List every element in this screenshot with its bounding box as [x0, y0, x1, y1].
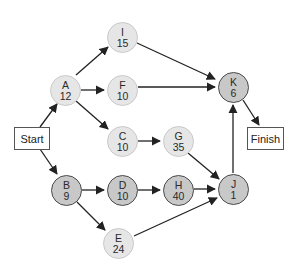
node-f: F 10 — [107, 75, 138, 106]
node-i: I 15 — [107, 22, 138, 53]
edge-start-b — [40, 149, 57, 174]
start-label: Start — [20, 133, 43, 145]
node-j: J 1 — [218, 174, 249, 205]
node-a: A 12 — [50, 75, 81, 106]
node-k-id: K — [230, 77, 237, 88]
node-e-id: E — [115, 233, 122, 244]
node-h-duration: 40 — [173, 191, 185, 202]
start-box: Start — [14, 127, 50, 150]
edge-b-e — [77, 202, 105, 230]
network-diagram: Start Finish I 15 A 12 F 10 K 6 C 10 G 3… — [0, 0, 301, 270]
node-c: C 10 — [107, 126, 138, 157]
node-d-id: D — [119, 180, 127, 191]
node-g: G 35 — [163, 126, 194, 157]
finish-box: Finish — [247, 127, 284, 150]
node-h: H 40 — [163, 175, 194, 206]
node-e: E 24 — [103, 228, 134, 259]
edge-g-j — [188, 153, 219, 179]
node-c-duration: 10 — [117, 142, 129, 153]
node-j-duration: 1 — [231, 190, 237, 201]
node-a-id: A — [62, 80, 69, 91]
node-g-duration: 35 — [173, 142, 185, 153]
node-e-duration: 24 — [113, 244, 125, 255]
node-f-id: F — [119, 80, 125, 91]
finish-label: Finish — [251, 133, 280, 145]
node-f-duration: 10 — [117, 91, 129, 102]
node-g-id: G — [174, 131, 182, 142]
node-k-duration: 6 — [231, 88, 237, 99]
edge-a-i — [76, 47, 108, 75]
node-a-duration: 12 — [60, 91, 72, 102]
node-c-id: C — [119, 131, 127, 142]
node-h-id: H — [175, 180, 183, 191]
node-d: D 10 — [107, 175, 138, 206]
node-j-id: J — [231, 179, 236, 190]
node-b-id: B — [63, 180, 70, 191]
node-b-duration: 9 — [64, 191, 70, 202]
node-b: B 9 — [51, 175, 82, 206]
node-k: K 6 — [218, 72, 249, 103]
node-i-id: I — [121, 27, 124, 38]
edge-a-c — [76, 101, 108, 129]
node-d-duration: 10 — [117, 191, 129, 202]
edge-i-k — [137, 43, 215, 79]
edge-k-finish — [243, 100, 259, 125]
node-i-duration: 15 — [117, 38, 129, 49]
edge-start-a — [40, 104, 57, 127]
